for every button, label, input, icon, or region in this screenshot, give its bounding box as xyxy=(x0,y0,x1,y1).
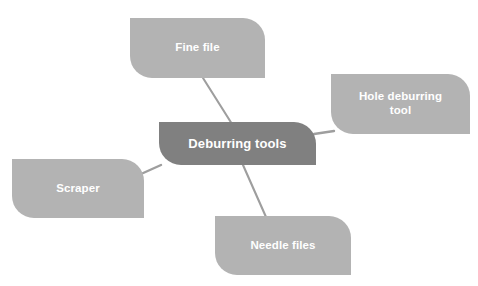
node-label-hole-deburring-tool: Hole deburring tool xyxy=(359,90,442,117)
connector-scraper xyxy=(141,165,161,174)
connector-needle-files xyxy=(243,165,266,217)
mindmap-node-needle-files[interactable]: Needle files xyxy=(215,216,351,275)
mindmap-diagram: Fine file Hole deburring tool Scraper Ne… xyxy=(0,0,478,286)
connector-fine-file xyxy=(203,78,232,124)
node-label-deburring-tools: Deburring tools xyxy=(188,136,286,151)
node-label-scraper: Scraper xyxy=(56,182,100,196)
connector-hole-deburring xyxy=(314,131,334,134)
node-label-needle-files: Needle files xyxy=(250,239,315,253)
node-label-fine-file: Fine file xyxy=(175,41,219,55)
mindmap-node-center-deburring-tools[interactable]: Deburring tools xyxy=(159,122,316,165)
mindmap-node-scraper[interactable]: Scraper xyxy=(12,159,144,218)
mindmap-node-hole-deburring-tool[interactable]: Hole deburring tool xyxy=(331,74,470,134)
mindmap-node-fine-file[interactable]: Fine file xyxy=(130,18,265,78)
